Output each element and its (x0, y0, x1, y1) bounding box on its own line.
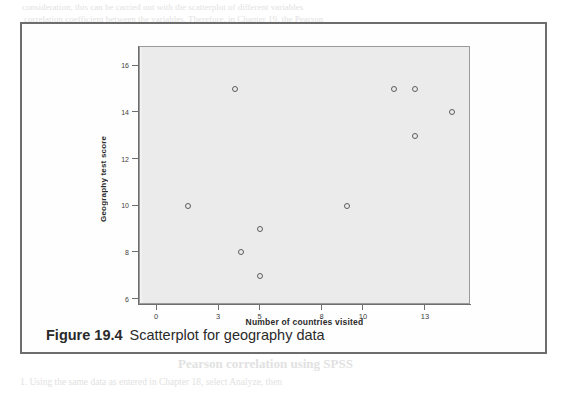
data-point (344, 203, 350, 209)
y-axis-tick-label: 16 (121, 62, 129, 69)
y-axis-tick-label: 10 (121, 202, 129, 209)
y-axis-tick-label: 6 (125, 295, 129, 302)
plot-area (139, 46, 470, 304)
y-axis-tick-label: 14 (121, 108, 129, 115)
bleed-text-line: consideration, this can be carried out w… (22, 2, 303, 12)
scatterplot-chart: 6810121416 03581013 Geography test score… (22, 24, 549, 324)
y-axis-title: Geography test score (96, 104, 110, 254)
x-axis-line (138, 304, 471, 305)
y-axis-line (138, 46, 139, 305)
x-axis-tick: 8 (321, 304, 322, 310)
data-point (257, 226, 263, 232)
data-point (185, 203, 191, 209)
data-point (412, 133, 418, 139)
y-axis-tick: 16 (132, 65, 138, 66)
y-axis-tick: 8 (132, 251, 138, 252)
x-axis-tick: 10 (362, 304, 363, 310)
figure-box: 6810121416 03581013 Geography test score… (20, 22, 547, 354)
y-axis-tick-label: 12 (121, 155, 129, 162)
data-point (257, 273, 263, 279)
x-axis-tick: 5 (259, 304, 260, 310)
y-axis-tick-label: 8 (125, 248, 129, 255)
bleed-text-line: 1. Using the same data as entered in Cha… (20, 377, 282, 387)
x-axis-title: Number of countries visited (139, 317, 470, 327)
y-axis-tick: 10 (132, 205, 138, 206)
x-axis-tick: 3 (218, 304, 219, 310)
bleed-text-line: Pearson correlation using SPSS (178, 356, 353, 372)
data-point (391, 86, 397, 92)
data-point (238, 249, 244, 255)
data-point (412, 86, 418, 92)
y-axis-tick: 6 (132, 298, 138, 299)
data-point (232, 86, 238, 92)
figure-caption: Figure 19.4Scatterplot for geography dat… (46, 327, 325, 343)
x-axis-tick: 13 (424, 304, 425, 310)
y-axis-tick: 14 (132, 111, 138, 112)
x-axis-tick: 0 (156, 304, 157, 310)
figure-caption-number: Figure 19.4 (46, 327, 123, 343)
data-point (449, 109, 455, 115)
y-axis-tick: 12 (132, 158, 138, 159)
figure-caption-text: Scatterplot for geography data (130, 327, 325, 343)
